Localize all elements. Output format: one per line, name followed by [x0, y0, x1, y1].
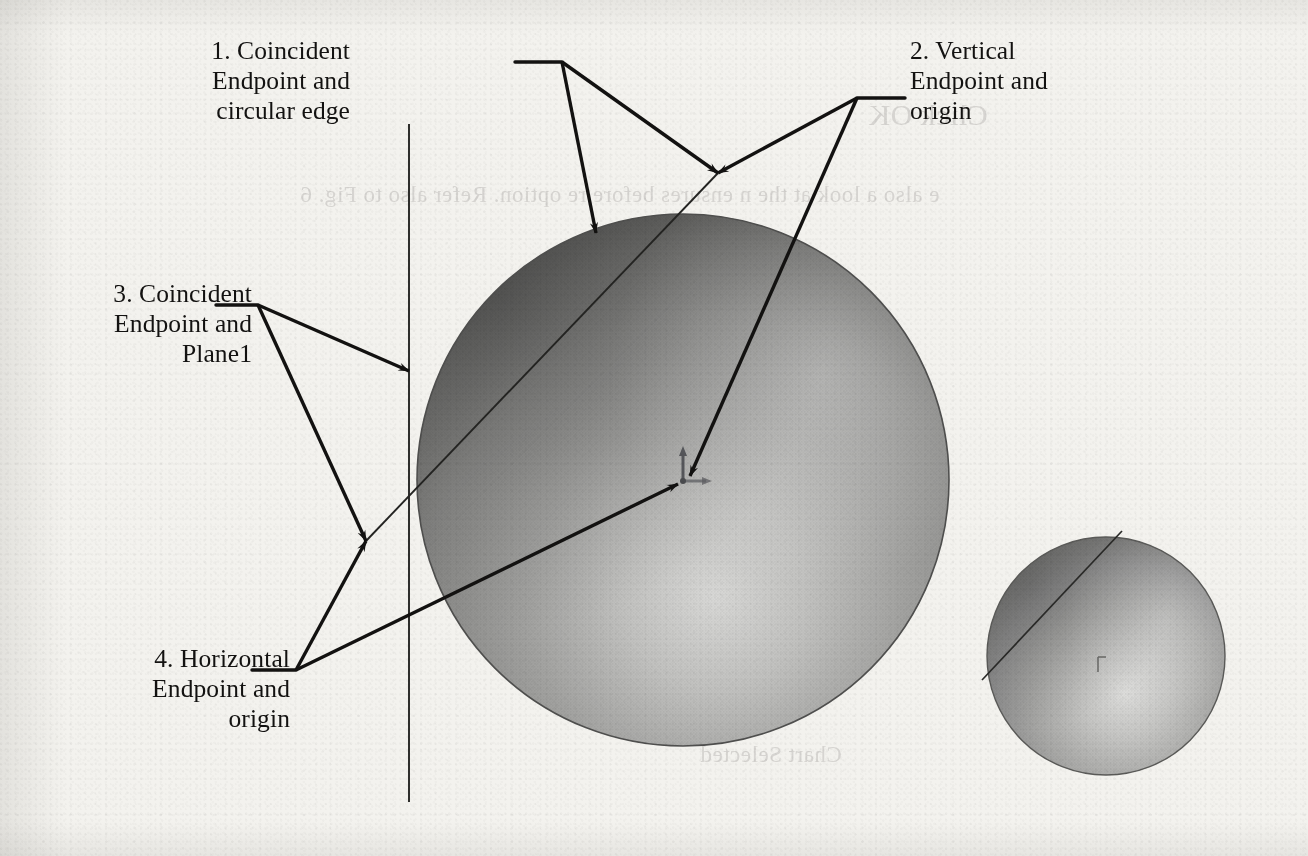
- callout-label-2: 2. Vertical Endpoint and origin: [910, 36, 1190, 126]
- small-sphere-halftone: [987, 537, 1225, 775]
- callout-label-1: 1. Coincident Endpoint and circular edge: [60, 36, 350, 126]
- scanned-page: Click OKe also a look at the n ensures b…: [0, 0, 1308, 856]
- callout-label-3: 3. Coincident Endpoint and Plane1: [0, 279, 252, 369]
- leader-3-branch-b: [258, 305, 366, 541]
- callout-label-4: 4. Horizontal Endpoint and origin: [22, 644, 290, 734]
- leader-4-branch-a: [296, 541, 366, 670]
- leader-3-branch-a: [258, 305, 409, 371]
- leader-1-branch-a: [562, 62, 596, 233]
- leader-2-branch-a: [718, 98, 857, 173]
- small-sphere-group: [982, 531, 1225, 775]
- leader-callout-1: [515, 62, 718, 233]
- leader-1-branch-b: [562, 62, 718, 173]
